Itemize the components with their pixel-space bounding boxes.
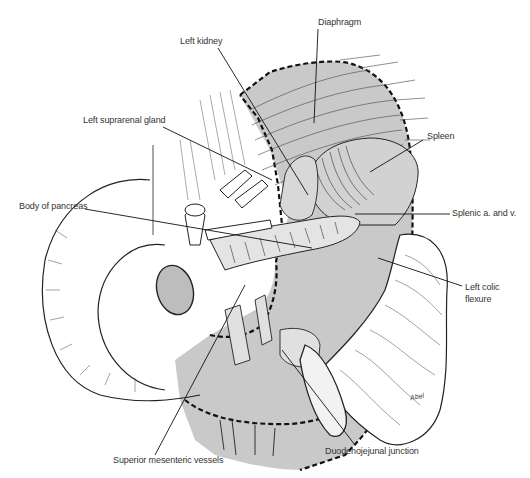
label-superior-mesenteric-vessels: Superior mesenteric vessels — [113, 455, 223, 466]
spleen-shape — [309, 138, 418, 225]
colon-left-loop-inner — [98, 244, 165, 390]
label-splenic-vessels: Splenic a. and v. — [452, 208, 516, 219]
label-diaphragm: Diaphragm — [318, 17, 361, 28]
label-left-kidney: Left kidney — [180, 36, 222, 47]
label-spleen: Spleen — [427, 131, 454, 142]
label-left-suprarenal-gland: Left suprarenal gland — [83, 115, 165, 126]
colon-left-haustra — [46, 230, 135, 392]
anatomy-illustration — [0, 0, 530, 478]
label-body-of-pancreas: Body of pancreas — [19, 201, 87, 212]
cut-bowel-opening — [151, 261, 199, 319]
label-duodenojejunal-junction: Duodenojejunal junction — [325, 446, 419, 457]
label-left-colic-flexure-line1: Left colic — [465, 282, 500, 293]
label-left-colic-flexure-line2: flexure — [465, 294, 491, 305]
